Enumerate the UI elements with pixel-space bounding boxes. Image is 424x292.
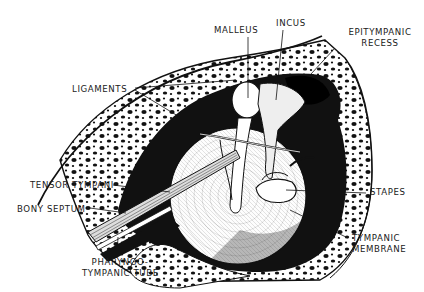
malleus-head xyxy=(232,82,262,118)
label-tympanic-membrane: TYMPANIC MEMBRANE xyxy=(352,233,406,255)
label-malleus: MALLEUS xyxy=(214,25,258,36)
label-epitympanic-line2: RECESS xyxy=(345,38,415,49)
label-pharyngo-tympanic-tube: PHARYNGO- TYMPANIC TUBE xyxy=(82,257,158,279)
middle-ear-diagram: MALLEUS INCUS EPITYMPANIC RECESS LIGAMEN… xyxy=(0,0,424,292)
label-pharyngo-line1: PHARYNGO- xyxy=(82,257,158,268)
label-tympanic-line2: MEMBRANE xyxy=(352,244,406,255)
label-epitympanic-line1: EPITYMPANIC xyxy=(345,27,415,38)
label-incus: INCUS xyxy=(276,18,306,29)
label-epitympanic-recess: EPITYMPANIC RECESS xyxy=(345,27,415,49)
label-tympanic-line1: TYMPANIC xyxy=(352,233,406,244)
label-bony-septum: BONY SEPTUM xyxy=(17,204,86,215)
label-stapes: STAPES xyxy=(370,187,406,198)
label-tensor-tympani: TENSOR TYMPANI xyxy=(30,180,114,191)
label-pharyngo-line2: TYMPANIC TUBE xyxy=(82,268,158,279)
label-ligaments: LIGAMENTS xyxy=(72,84,127,95)
